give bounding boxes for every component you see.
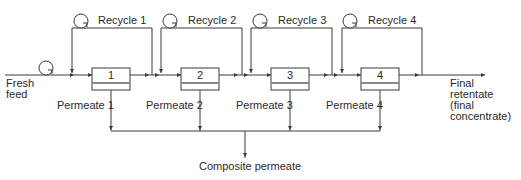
diafiltration-diagram: Fresh feed 1 2 3 4 Recycle 1 Recycle 2 R… — [0, 0, 521, 180]
fresh-feed-label: Fresh feed — [6, 78, 34, 100]
composite-permeate-label: Composite permeate — [199, 161, 301, 172]
flow-lines — [0, 0, 521, 180]
module-1-number: 1 — [92, 70, 130, 81]
recycle-4-label: Recycle 4 — [368, 15, 416, 26]
final-retentate-label: Final retentate (final concentrate) — [450, 78, 511, 122]
recycle-3-label: Recycle 3 — [278, 15, 326, 26]
recycle-2-label: Recycle 2 — [188, 15, 236, 26]
permeate-2-label: Permeate 2 — [146, 100, 203, 111]
permeate-4-label: Permeate 4 — [326, 100, 383, 111]
recycle-1-label: Recycle 1 — [98, 15, 146, 26]
module-3-number: 3 — [271, 70, 309, 81]
permeate-1-label: Permeate 1 — [57, 100, 114, 111]
feed-pump-icon — [39, 61, 53, 75]
module-2-number: 2 — [181, 70, 219, 81]
module-4-number: 4 — [361, 70, 399, 81]
permeate-3-label: Permeate 3 — [236, 100, 293, 111]
